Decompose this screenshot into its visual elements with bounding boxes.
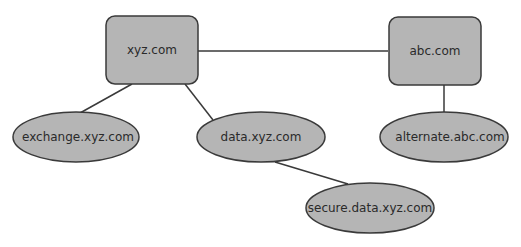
node-secure[interactable]: secure.data.xyz.com xyxy=(306,183,434,233)
node-data-label: data.xyz.com xyxy=(221,130,302,144)
node-alternate[interactable]: alternate.abc.com xyxy=(380,112,508,162)
node-abc-label: abc.com xyxy=(409,44,460,58)
edge-xyz-exchange xyxy=(80,84,132,113)
node-exchange-label: exchange.xyz.com xyxy=(22,130,134,144)
node-abc[interactable]: abc.com xyxy=(389,17,481,85)
node-data[interactable]: data.xyz.com xyxy=(197,112,325,162)
node-secure-label: secure.data.xyz.com xyxy=(308,201,433,215)
node-xyz-label: xyz.com xyxy=(127,43,177,57)
node-xyz[interactable]: xyz.com xyxy=(106,16,198,84)
node-exchange[interactable]: exchange.xyz.com xyxy=(13,112,139,162)
edge-data-secure xyxy=(275,162,348,184)
node-alternate-label: alternate.abc.com xyxy=(395,130,504,144)
domain-diagram: xyz.com abc.com exchange.xyz.com data.xy… xyxy=(0,0,521,247)
edge-xyz-data xyxy=(185,84,213,120)
